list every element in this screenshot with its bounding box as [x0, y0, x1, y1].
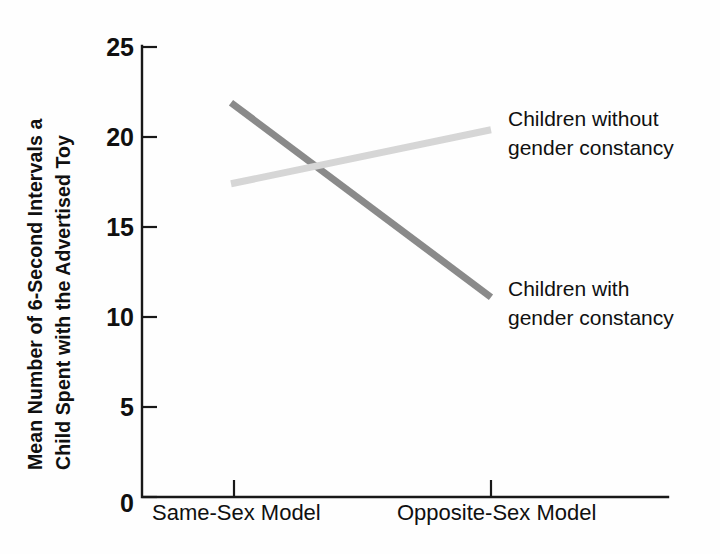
- y-axis-tick-labels: 25 20 15 10 5 0: [106, 33, 134, 517]
- y-tick-label-5: 5: [120, 393, 134, 421]
- x-axis-tick-labels: Same-Sex Model Opposite-Sex Model: [152, 500, 596, 525]
- y-axis-label-line-2: Child Spent with the Advertised Toy: [52, 135, 74, 470]
- y-axis-label-line-1: Mean Number of 6-Second Intervals a: [24, 119, 46, 470]
- y-tick-label-25: 25: [106, 33, 134, 61]
- series-line-with-gender-constancy: [231, 103, 491, 297]
- x-tick-label-opposite-sex: Opposite-Sex Model: [397, 500, 596, 525]
- series-line-without-gender-constancy: [231, 130, 491, 184]
- y-axis-label: Mean Number of 6-Second Intervals a Chil…: [24, 119, 74, 470]
- y-tick-label-0: 0: [120, 489, 134, 517]
- line-chart-canvas: Mean Number of 6-Second Intervals a Chil…: [0, 0, 720, 554]
- legend-with-line-2: gender constancy: [508, 306, 674, 329]
- legend-without-line-2: gender constancy: [508, 136, 674, 159]
- y-tick-label-10: 10: [106, 303, 134, 331]
- legend-label-with-gender-constancy: Children with gender constancy: [508, 277, 674, 329]
- y-tick-label-15: 15: [106, 213, 134, 241]
- x-axis-ticks: [234, 480, 491, 497]
- legend-without-line-1: Children without: [508, 107, 659, 130]
- legend-with-line-1: Children with: [508, 277, 629, 300]
- y-axis-ticks: [142, 47, 157, 497]
- y-tick-label-20: 20: [106, 123, 134, 151]
- chart-figure: Mean Number of 6-Second Intervals a Chil…: [0, 0, 720, 554]
- x-tick-label-same-sex: Same-Sex Model: [152, 500, 321, 525]
- legend-label-without-gender-constancy: Children without gender constancy: [508, 107, 674, 159]
